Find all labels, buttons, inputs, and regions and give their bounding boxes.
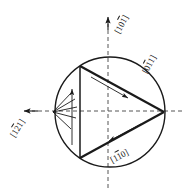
figure-canvas [0, 0, 185, 192]
stereographic-projection-figure: [101] [011] [110] [121] [0, 0, 185, 192]
lower-edge-slip-arrow [109, 124, 141, 141]
triangle-upper-right-edge [80, 66, 164, 112]
upper-edge-slip-arrow [91, 77, 128, 98]
